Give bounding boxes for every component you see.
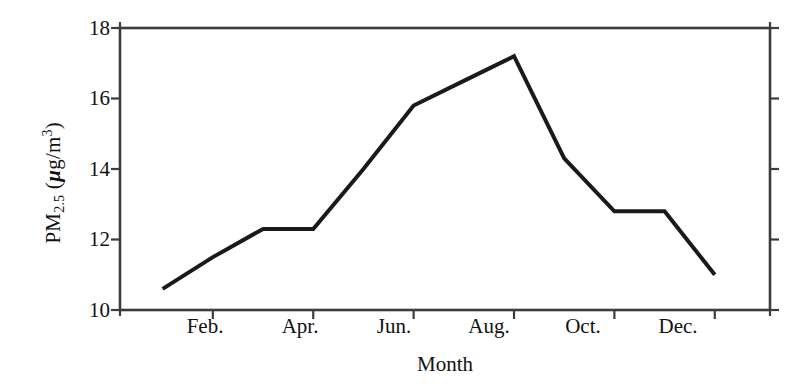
chart-plot-area [0,0,811,388]
pm25-data-line [163,56,715,289]
pm25-monthly-line-chart: PM2.5 (µg/m3) 18 16 14 12 10 Feb. Apr. J… [0,0,811,388]
x-axis-ticks [120,22,770,319]
axis-frame [120,28,770,310]
y-axis-ticks-right [770,28,779,310]
y-axis-ticks-left [111,28,120,310]
